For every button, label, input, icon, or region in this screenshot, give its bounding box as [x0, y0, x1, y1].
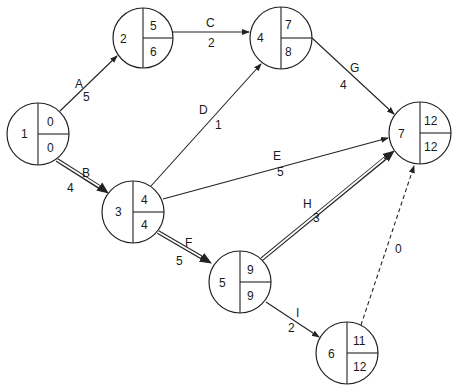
node-latest-time: 6 — [150, 45, 157, 59]
node-latest-time: 12 — [424, 140, 438, 154]
node-earliest-time: 11 — [353, 334, 366, 348]
edge-duration-label: 5 — [277, 165, 284, 179]
arrow-icon — [151, 64, 261, 186]
edge-activity-label: H — [303, 197, 312, 211]
node-number: 2 — [120, 32, 127, 46]
edge-duration-label: 2 — [288, 321, 295, 335]
edge-A: A 5 — [60, 56, 117, 111]
node-latest-time: 0 — [47, 141, 54, 155]
edge-duration-label: 5 — [83, 90, 90, 104]
node-latest-time: 4 — [141, 218, 148, 232]
edge-duration-label: 4 — [67, 181, 74, 195]
edge-D: D 1 — [151, 64, 261, 186]
node-earliest-time: 0 — [47, 115, 54, 129]
node-2: 2 5 6 — [113, 8, 173, 68]
node-1: 1 0 0 — [7, 103, 69, 165]
edge-duration-label: 4 — [340, 78, 347, 92]
node-latest-time: 12 — [353, 360, 367, 374]
edge-F: F 5 — [158, 232, 211, 268]
edge-activity-label: F — [185, 236, 192, 250]
node-3: 3 4 4 — [102, 181, 164, 243]
node-number: 7 — [398, 127, 405, 141]
edge-duration-label: 2 — [208, 36, 215, 50]
edge-activity-label: C — [206, 16, 215, 30]
node-4: 4 7 8 — [250, 7, 312, 69]
network-diagram: A 5 B 4 C 2 D 1 E 5 F 5 G 4 — [0, 0, 458, 387]
node-earliest-time: 9 — [247, 263, 254, 277]
node-number: 1 — [21, 127, 28, 141]
node-earliest-time: 5 — [150, 19, 157, 33]
edge-duration-label: 3 — [313, 211, 320, 225]
arrow-icon — [361, 166, 414, 325]
node-6: 6 11 12 — [316, 322, 378, 384]
node-number: 6 — [328, 347, 335, 361]
node-latest-time: 9 — [247, 289, 254, 303]
edge-activity-label: E — [273, 149, 281, 163]
node-7: 7 12 12 — [389, 102, 451, 164]
edge-duration-label: 5 — [176, 254, 183, 268]
edge-I: I 2 — [266, 302, 319, 337]
edge-activity-label: A — [75, 77, 83, 91]
node-earliest-time: 12 — [424, 114, 438, 128]
edge-activity-label: I — [296, 306, 299, 320]
edge-activity-label: B — [82, 166, 90, 180]
edge-dummy: 0 — [361, 166, 414, 325]
edge-duration-label: 0 — [395, 242, 402, 256]
node-earliest-time: 4 — [141, 193, 148, 207]
arrow-icon — [312, 38, 394, 114]
edge-duration-label: 1 — [215, 118, 222, 132]
node-earliest-time: 7 — [285, 18, 292, 32]
edge-G: G 4 — [312, 38, 394, 114]
node-latest-time: 8 — [285, 45, 292, 59]
edge-E: E 5 — [163, 138, 388, 199]
edge-activity-label: G — [350, 61, 359, 75]
node-5: 5 9 9 — [209, 251, 271, 313]
node-number: 5 — [219, 276, 226, 290]
edge-C: C 2 — [173, 16, 249, 50]
arrow-icon — [163, 138, 388, 199]
edge-B: B 4 — [57, 160, 108, 195]
edge-activity-label: D — [199, 103, 208, 117]
arrow-icon — [384, 151, 394, 159]
node-number: 4 — [257, 31, 264, 45]
node-number: 3 — [115, 205, 122, 219]
